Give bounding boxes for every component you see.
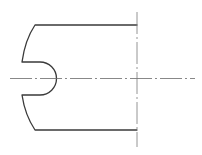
part-outline [22, 25, 137, 130]
technical-drawing [0, 0, 202, 155]
